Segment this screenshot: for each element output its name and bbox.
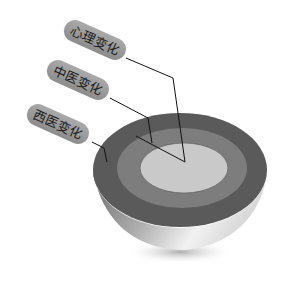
layered-hemisphere-diagram: 心理变化 中医变化 西医变化 — [0, 0, 289, 283]
label-tcm: 中医变化 — [43, 57, 112, 104]
label-psychological: 心理变化 — [60, 17, 129, 64]
label-western: 西医变化 — [23, 101, 92, 148]
inner-layer-psychological — [140, 143, 228, 193]
